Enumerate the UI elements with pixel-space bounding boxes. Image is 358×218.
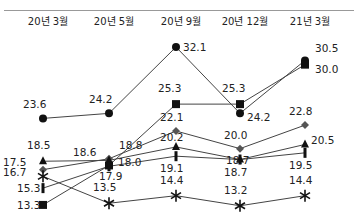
data-label: 22.1 (160, 111, 183, 123)
line-chart: 23.624.232.124.230.513.325.325.330.018.8… (0, 0, 358, 218)
data-label: 25.3 (158, 82, 181, 94)
diamond-marker-icon (301, 121, 309, 129)
triangle-marker-icon (172, 142, 180, 150)
square-marker-icon (301, 61, 309, 69)
data-label: 30.5 (315, 42, 338, 54)
asterisk-marker-icon (300, 190, 310, 202)
circle-marker-icon (105, 109, 113, 117)
data-label: 16.7 (3, 166, 26, 178)
data-label: 24.2 (89, 93, 112, 105)
data-label: 18.6 (73, 146, 97, 158)
data-label: 13.5 (93, 181, 116, 193)
data-label: 14.4 (160, 174, 184, 186)
square-marker-icon (172, 100, 180, 108)
circle-marker-icon (172, 43, 180, 51)
data-label: 24.2 (247, 111, 270, 123)
data-label: 14.4 (289, 174, 313, 186)
data-label: 18.5 (27, 139, 50, 151)
circle-marker-icon (236, 109, 244, 117)
data-label: 20.5 (311, 134, 334, 146)
data-label: 15.3 (17, 182, 40, 194)
data-label: 32.1 (183, 41, 206, 53)
data-label: 19.5 (289, 159, 312, 171)
square-marker-icon (236, 100, 244, 108)
diamond-marker-icon (236, 145, 244, 153)
triangle-marker-icon (39, 156, 47, 164)
asterisk-marker-icon (235, 200, 245, 212)
circle-marker-icon (39, 114, 47, 122)
bar-marker-icon (175, 151, 178, 161)
triangle-marker-icon (301, 139, 309, 147)
data-label: 13.2 (224, 184, 247, 196)
data-label: 30.0 (315, 63, 338, 75)
bar-marker-icon (42, 183, 45, 193)
data-label: 18.0 (118, 156, 141, 168)
data-label: 18.7 (224, 166, 247, 178)
data-label: 23.6 (23, 98, 47, 110)
data-label: 22.8 (289, 105, 312, 117)
data-label: 18.8 (119, 139, 142, 151)
data-label: 19.1 (160, 162, 183, 174)
asterisk-marker-icon (38, 170, 48, 182)
data-label: 25.3 (222, 82, 245, 94)
data-label: 20.2 (160, 131, 183, 143)
data-label: 13.3 (17, 199, 40, 211)
data-label: 20.0 (224, 129, 247, 141)
bar-marker-icon (304, 148, 307, 158)
data-label: 18.7 (226, 154, 249, 166)
